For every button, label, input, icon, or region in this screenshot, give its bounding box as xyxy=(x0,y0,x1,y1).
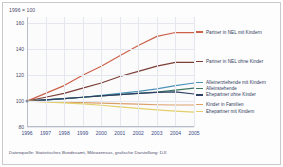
legend-item-label: Alleinstehende xyxy=(206,86,237,91)
legend-item-label: Partner in NEL ohne Kinder xyxy=(206,59,263,64)
y-axis-tick-label: 160 xyxy=(16,20,24,26)
legend-item-label: Partner in NEL mit Kindern xyxy=(206,30,262,35)
legend-color-swatch xyxy=(196,104,203,105)
legend-color-swatch xyxy=(196,82,203,83)
series-line xyxy=(27,101,194,112)
legend-color-swatch xyxy=(196,88,203,89)
gridline-vertical xyxy=(120,17,121,127)
origin-marker xyxy=(26,100,29,103)
gridline-horizontal xyxy=(27,101,194,102)
gridline-vertical xyxy=(194,17,195,127)
series-lines xyxy=(27,17,194,127)
y-axis-tick-label: 140 xyxy=(16,46,24,52)
gridline-vertical xyxy=(46,17,47,127)
gridline-horizontal xyxy=(27,75,194,76)
legend-item[interactable]: Partner in NEL ohne Kinder xyxy=(196,59,263,64)
plot-area: 8010012014016019961997199819992000200120… xyxy=(27,17,194,127)
x-axis-tick-label: 1996 xyxy=(21,130,32,136)
gridline-vertical xyxy=(83,17,84,127)
legend-item[interactable]: Kinder in Familien xyxy=(196,102,244,107)
gridline-vertical xyxy=(175,17,176,127)
y-axis-tick-label: 120 xyxy=(16,72,24,78)
gridline-vertical xyxy=(157,17,158,127)
legend-item-label: Ehepartner ohne Kinder xyxy=(206,92,256,97)
legend-item-label: Kinder in Familien xyxy=(206,102,244,107)
gridline-horizontal xyxy=(27,49,194,50)
gridline-vertical xyxy=(64,17,65,127)
x-axis-tick-label: 2004 xyxy=(170,130,181,136)
legend-item[interactable]: Alleinerziehende mit Kindern xyxy=(196,80,266,85)
source-note: Datenquelle: Statistisches Bundesamt, Mi… xyxy=(9,150,167,155)
gridline-horizontal xyxy=(27,23,194,24)
legend-item[interactable]: Ehepartner mit Kindern xyxy=(196,109,254,114)
gridline-vertical xyxy=(138,17,139,127)
y-axis-line xyxy=(27,17,28,127)
x-axis-tick-label: 1998 xyxy=(59,130,70,136)
gridline-vertical xyxy=(101,17,102,127)
gridline-horizontal xyxy=(27,127,194,128)
legend-item[interactable]: Alleinstehende xyxy=(196,86,237,91)
legend-item[interactable]: Ehepartner ohne Kinder xyxy=(196,92,256,97)
x-axis-tick-label: 2003 xyxy=(151,130,162,136)
x-axis-tick-label: 2005 xyxy=(188,130,199,136)
x-axis-tick-label: 2002 xyxy=(133,130,144,136)
x-axis-tick-label: 1997 xyxy=(40,130,51,136)
legend-item-label: Alleinerziehende mit Kindern xyxy=(206,80,266,85)
legend-color-swatch xyxy=(196,61,203,62)
legend-item[interactable]: Partner in NEL mit Kindern xyxy=(196,30,262,35)
x-axis-line xyxy=(27,126,194,127)
x-axis-tick-label: 1999 xyxy=(77,130,88,136)
chart-figure: 1996 = 100 80100120140160199619971998199… xyxy=(0,0,283,167)
x-axis-tick-label: 2000 xyxy=(96,130,107,136)
axis-unit-note: 1996 = 100 xyxy=(9,7,35,13)
y-axis-tick-label: 100 xyxy=(16,98,24,104)
legend-color-swatch xyxy=(196,94,203,95)
chart-legend: Partner in NEL mit KindernPartner in NEL… xyxy=(196,17,282,127)
legend-color-swatch xyxy=(196,111,203,112)
legend-item-label: Ehepartner mit Kindern xyxy=(206,109,254,114)
x-axis-tick-label: 2001 xyxy=(114,130,125,136)
legend-color-swatch xyxy=(196,31,203,32)
